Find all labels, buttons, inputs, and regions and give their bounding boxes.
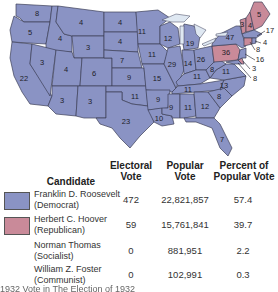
svg-text:19: 19 xyxy=(186,39,194,48)
header-percent-line2: Popular Vote xyxy=(210,171,278,182)
header-electoral-line1: Electoral xyxy=(106,160,156,171)
header-popular-line1: Popular xyxy=(160,160,210,171)
svg-text:11: 11 xyxy=(193,72,201,81)
candidate-name-text: William Z. Foster xyxy=(34,264,102,275)
electoral-vote: 472 xyxy=(118,194,144,205)
svg-text:4: 4 xyxy=(58,34,62,43)
popular-vote: 15,761,841 xyxy=(155,219,215,230)
svg-text:3: 3 xyxy=(60,96,64,105)
svg-text:12: 12 xyxy=(201,102,209,111)
svg-text:47: 47 xyxy=(226,33,234,42)
svg-text:8: 8 xyxy=(256,45,260,54)
svg-text:9: 9 xyxy=(127,73,131,82)
percent-popular-vote: 2.2 xyxy=(225,245,261,256)
svg-text:11: 11 xyxy=(222,67,230,76)
svg-text:5: 5 xyxy=(257,10,261,19)
svg-text:4: 4 xyxy=(64,65,68,74)
svg-text:8: 8 xyxy=(35,9,39,18)
legend-swatch-republican xyxy=(4,217,30,235)
svg-text:8: 8 xyxy=(210,65,214,74)
candidate-name: Norman Thomas (Socialist) xyxy=(34,240,101,261)
svg-text:4: 4 xyxy=(248,21,252,30)
electoral-vote: 0 xyxy=(118,245,144,256)
header-popular-vote: Popular Vote xyxy=(160,160,210,182)
candidate-name-text: Herbert C. Hoover xyxy=(34,214,107,225)
svg-text:26: 26 xyxy=(197,55,205,64)
state-ct xyxy=(244,38,252,46)
electoral-vote: 59 xyxy=(118,219,144,230)
svg-text:9: 9 xyxy=(156,95,160,104)
caption: 1932 Vote in The Election of 1932 xyxy=(0,284,135,292)
svg-text:4: 4 xyxy=(263,38,267,47)
svg-text:15: 15 xyxy=(153,74,161,83)
svg-text:10: 10 xyxy=(155,114,163,123)
svg-text:11: 11 xyxy=(138,27,146,36)
candidate-party: (Democrat) xyxy=(34,200,120,211)
svg-text:13: 13 xyxy=(220,81,228,90)
svg-text:6: 6 xyxy=(92,69,96,78)
popular-vote: 102,991 xyxy=(155,269,215,280)
candidate-name-text: Franklin D. Roosevelt xyxy=(34,189,120,200)
electoral-vote: 0 xyxy=(118,269,144,280)
header-candidate: Candidate xyxy=(36,176,106,187)
percent-popular-vote: 0.3 xyxy=(225,269,261,280)
svg-text:11: 11 xyxy=(148,50,156,59)
state-fl xyxy=(184,118,232,156)
lake-michigan xyxy=(180,26,184,44)
svg-text:3: 3 xyxy=(252,64,256,73)
svg-text:4: 4 xyxy=(118,37,122,46)
svg-text:9: 9 xyxy=(169,103,173,112)
svg-text:11: 11 xyxy=(131,92,139,101)
candidate-party: (Socialist) xyxy=(34,251,101,262)
svg-text:8: 8 xyxy=(217,92,221,101)
svg-text:3: 3 xyxy=(88,97,92,106)
svg-text:3: 3 xyxy=(240,20,244,29)
svg-text:7: 7 xyxy=(220,135,224,144)
svg-text:3: 3 xyxy=(40,58,44,67)
svg-text:29: 29 xyxy=(168,60,176,69)
candidate-name-text: Norman Thomas xyxy=(34,240,101,251)
header-electoral-vote: Electoral Vote xyxy=(106,160,156,182)
svg-text:3: 3 xyxy=(86,43,90,52)
header-electoral-line2: Vote xyxy=(106,171,156,182)
svg-text:22: 22 xyxy=(20,74,28,83)
svg-text:4: 4 xyxy=(118,18,122,27)
svg-text:36: 36 xyxy=(222,48,230,57)
svg-text:11: 11 xyxy=(184,103,192,112)
svg-text:17: 17 xyxy=(266,26,274,35)
candidate-party: (Republican) xyxy=(34,225,107,236)
svg-text:14: 14 xyxy=(184,59,192,68)
header-popular-line2: Vote xyxy=(160,171,210,182)
candidate-name: Herbert C. Hoover (Republican) xyxy=(34,214,107,235)
percent-popular-vote: 39.7 xyxy=(225,219,261,230)
svg-text:5: 5 xyxy=(28,28,32,37)
election-map: 8 5 22 4 3 4 3 4 3 6 3 4 4 7 9 11 23 11 … xyxy=(0,0,278,160)
candidate-name: William Z. Foster (Communist) xyxy=(34,264,102,285)
svg-text:23: 23 xyxy=(122,117,130,126)
svg-text:16: 16 xyxy=(256,55,264,64)
header-percent-line1: Percent of xyxy=(210,160,278,171)
candidate-name: Franklin D. Roosevelt (Democrat) xyxy=(34,189,120,210)
svg-text:8: 8 xyxy=(253,74,257,83)
percent-popular-vote: 57.4 xyxy=(225,194,261,205)
svg-text:7: 7 xyxy=(120,56,124,65)
svg-text:11: 11 xyxy=(184,85,192,94)
svg-text:4: 4 xyxy=(79,18,83,27)
header-percent-popular-vote: Percent of Popular Vote xyxy=(210,160,278,182)
popular-vote: 22,821,857 xyxy=(155,194,215,205)
svg-text:12: 12 xyxy=(164,34,172,43)
legend-swatch-democrat xyxy=(4,192,30,210)
popular-vote: 881,951 xyxy=(155,245,215,256)
